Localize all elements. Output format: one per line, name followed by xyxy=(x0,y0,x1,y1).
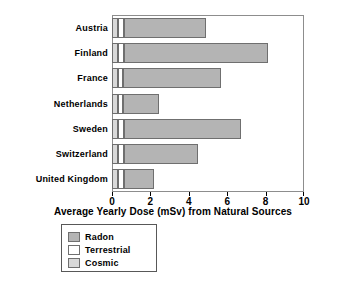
category-label: France xyxy=(0,73,108,83)
bar-row xyxy=(112,144,304,164)
category-label: Austria xyxy=(0,23,108,33)
bar-row xyxy=(112,68,304,88)
category-label: Finland xyxy=(0,48,108,58)
category-axis-labels: AustriaFinlandFranceNetherlandsSwedenSwi… xyxy=(0,15,108,192)
bar-segment-radon xyxy=(123,94,159,114)
bar-row xyxy=(112,18,304,38)
legend: RadonTerrestrialCosmic xyxy=(61,224,157,272)
legend-label: Radon xyxy=(85,232,114,242)
legend-label: Terrestrial xyxy=(85,245,131,255)
legend-label: Cosmic xyxy=(85,258,119,268)
category-label: Sweden xyxy=(0,124,108,134)
bar-segment-radon xyxy=(124,43,268,63)
bar-segment-radon xyxy=(124,119,240,139)
bars-layer xyxy=(112,15,304,192)
bar-segment-terrestrial xyxy=(118,119,125,139)
bar-row xyxy=(112,94,304,114)
bar-segment-radon xyxy=(124,18,207,38)
legend-item[interactable]: Radon xyxy=(68,230,114,243)
legend-swatch-cosmic xyxy=(68,258,80,268)
x-axis-title: Average Yearly Dose (mSv) from Natural S… xyxy=(0,206,346,217)
category-label: Netherlands xyxy=(0,99,108,109)
bar-segment-radon xyxy=(124,169,155,189)
category-label: United Kingdom xyxy=(0,174,108,184)
bar-segment-radon xyxy=(124,144,199,164)
bar-segment-radon xyxy=(123,68,222,88)
category-label: Switzerland xyxy=(0,149,108,159)
legend-swatch-terrestrial xyxy=(68,245,80,255)
bar-row xyxy=(112,169,304,189)
legend-swatch-radon xyxy=(68,232,80,242)
legend-item[interactable]: Terrestrial xyxy=(68,243,131,256)
bar-row xyxy=(112,43,304,63)
legend-item[interactable]: Cosmic xyxy=(68,256,119,269)
bar-row xyxy=(112,119,304,139)
bar-chart: AustriaFinlandFranceNetherlandsSwedenSwi… xyxy=(0,0,346,282)
